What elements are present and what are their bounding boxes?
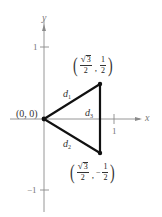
y-denominator: 2 bbox=[101, 66, 105, 75]
top-vertex-label: ( √3 2 , 1 2 ) bbox=[72, 55, 114, 75]
right-paren: ) bbox=[108, 55, 113, 75]
vertex-top bbox=[98, 82, 102, 86]
y-axis-label: y bbox=[42, 13, 46, 23]
y-tick-label-1: 1 bbox=[33, 43, 38, 52]
y-tick-label-neg1: −1 bbox=[27, 186, 37, 195]
radicand: 3 bbox=[83, 162, 88, 171]
right-paren: ) bbox=[110, 162, 115, 182]
bottom-vertex-label: ( √3 2 , − 1 2 ) bbox=[69, 162, 116, 182]
x-axis-label: x bbox=[145, 113, 149, 123]
segment-label-d2: d2 bbox=[63, 139, 71, 150]
comma: , bbox=[92, 170, 94, 182]
vertex-bottom bbox=[98, 151, 102, 155]
origin-label: (0, 0) bbox=[16, 109, 38, 119]
x-coordinate-fraction: √3 2 bbox=[80, 55, 92, 75]
minus-sign: − bbox=[96, 168, 101, 177]
x-coordinate-fraction: √3 2 bbox=[77, 162, 89, 182]
d3-index: 3 bbox=[90, 113, 93, 119]
d1-index: 1 bbox=[68, 94, 71, 100]
left-paren: ( bbox=[73, 55, 78, 75]
x-denominator: 2 bbox=[84, 66, 88, 75]
y-numerator: 1 bbox=[102, 163, 108, 173]
vertex-origin bbox=[42, 117, 47, 122]
y-coordinate-fraction: 1 2 bbox=[100, 56, 106, 75]
x-axis-arrow-icon bbox=[135, 117, 142, 121]
x-denominator: 2 bbox=[81, 173, 85, 182]
x-tick-label-1: 1 bbox=[112, 127, 117, 136]
y-numerator: 1 bbox=[100, 56, 106, 66]
comma: , bbox=[95, 63, 97, 75]
d2-index: 2 bbox=[68, 144, 71, 150]
y-coordinate-fraction: 1 2 bbox=[102, 163, 108, 182]
radicand: 3 bbox=[86, 55, 91, 64]
segment-label-d3: d3 bbox=[85, 108, 93, 119]
left-paren: ( bbox=[70, 162, 75, 182]
segment-label-d1: d1 bbox=[63, 89, 71, 100]
y-denominator: 2 bbox=[103, 173, 107, 182]
y-axis-arrow-icon bbox=[42, 24, 46, 31]
